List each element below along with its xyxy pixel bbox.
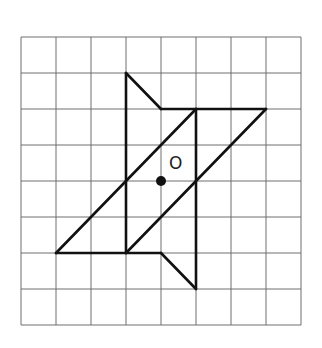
figure-segment [161,253,196,289]
symmetry-grid-figure: O [0,0,322,348]
figure-segment [126,73,161,109]
center-point-label: O [169,153,182,173]
center-point-dot [156,176,166,186]
